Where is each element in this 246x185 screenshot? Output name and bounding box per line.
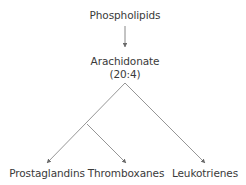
node-leukotrienes: Leukotrienes xyxy=(172,167,238,180)
node-prostaglandins-label: Prostaglandins xyxy=(9,167,85,179)
node-arachidonate-sublabel: (20:4) xyxy=(91,68,160,81)
pathway-edges xyxy=(0,0,246,185)
node-arachidonate: Arachidonate (20:4) xyxy=(91,55,160,81)
arrow-arachidonate-to-leukotrienes xyxy=(125,83,205,163)
arrow-arachidonate-to-prostaglandins xyxy=(47,83,125,163)
arrow-branch-to-thromboxanes xyxy=(87,124,126,163)
node-thromboxanes: Thromboxanes xyxy=(88,167,165,180)
node-thromboxanes-label: Thromboxanes xyxy=(88,167,165,179)
node-leukotrienes-label: Leukotrienes xyxy=(172,167,238,179)
node-prostaglandins: Prostaglandins xyxy=(9,167,85,180)
node-phospholipids-label: Phospholipids xyxy=(90,9,161,21)
node-arachidonate-label: Arachidonate xyxy=(91,55,160,68)
node-phospholipids: Phospholipids xyxy=(90,9,161,22)
